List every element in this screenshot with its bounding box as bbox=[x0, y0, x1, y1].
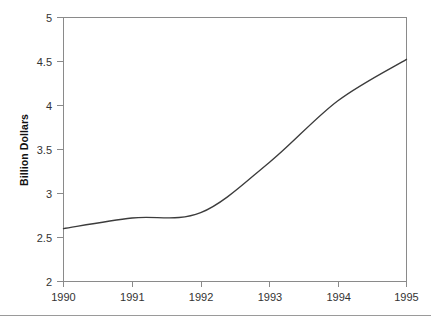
y-tick-label-3-5: 3.5 bbox=[37, 144, 52, 156]
y-axis-tick-labels: 5 4.5 4 3.5 3 2.5 2 bbox=[37, 12, 52, 288]
plot-area-background bbox=[63, 17, 407, 281]
y-tick-label-3: 3 bbox=[46, 188, 52, 200]
y-tick-label-2: 2 bbox=[46, 276, 52, 288]
y-tick-label-2-5: 2.5 bbox=[37, 232, 52, 244]
y-tick-label-4: 4 bbox=[46, 100, 52, 112]
x-tick-label-1995: 1995 bbox=[394, 291, 418, 303]
y-tick-label-4-5: 4.5 bbox=[37, 56, 52, 68]
y-tick-label-5: 5 bbox=[46, 12, 52, 24]
x-tick-label-1992: 1992 bbox=[189, 291, 213, 303]
x-axis-tick-labels: 1990 1991 1992 1993 1994 1995 bbox=[51, 291, 418, 303]
x-tick-label-1991: 1991 bbox=[120, 291, 144, 303]
x-tick-label-1994: 1994 bbox=[326, 291, 350, 303]
x-tick-label-1990: 1990 bbox=[51, 291, 75, 303]
y-axis-tick-marks bbox=[57, 18, 63, 282]
line-chart: 5 4.5 4 3.5 3 2.5 2 1990 1991 1992 1993 … bbox=[0, 0, 431, 324]
y-axis-title: Billion Dollars bbox=[18, 114, 30, 186]
figure-container: 5 4.5 4 3.5 3 2.5 2 1990 1991 1992 1993 … bbox=[0, 0, 431, 324]
x-tick-label-1993: 1993 bbox=[258, 291, 282, 303]
